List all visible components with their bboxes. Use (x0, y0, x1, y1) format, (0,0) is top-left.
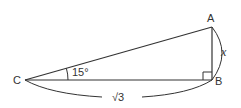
triangle-diagram: A B C 15° x √3 (0, 0, 241, 108)
side-label-sqrt3: √3 (112, 91, 124, 103)
dimension-arc-cb-right (142, 80, 212, 97)
angle-arc-c (66, 68, 68, 80)
side-ca (25, 27, 212, 80)
side-label-x: x (220, 45, 227, 59)
vertex-label-b: B (215, 75, 222, 87)
vertex-label-c: C (13, 74, 21, 86)
vertex-label-a: A (207, 12, 215, 24)
dimension-arc-cb-left (25, 80, 102, 97)
right-angle-marker (203, 72, 212, 80)
angle-label-c: 15° (72, 66, 89, 78)
